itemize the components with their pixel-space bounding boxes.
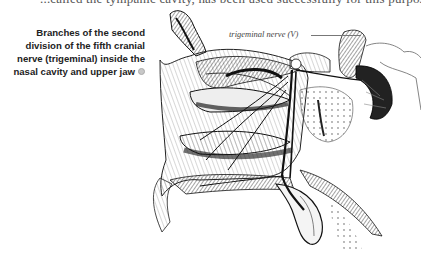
label-leader-line xyxy=(311,35,361,36)
dark-crescent xyxy=(356,66,392,119)
alveolar-region xyxy=(153,178,172,232)
hard-palate xyxy=(170,175,294,195)
caption-text: Branches of the second division of the f… xyxy=(13,27,145,77)
info-dot-icon[interactable] xyxy=(138,68,145,75)
maxillary-region xyxy=(300,87,353,142)
label-trigeminal-nerve: trigeminal nerve (V) xyxy=(229,29,298,39)
figure-caption: Branches of the second division of the f… xyxy=(8,26,145,78)
nasal-bone xyxy=(170,11,206,56)
soft-palate xyxy=(276,184,322,244)
